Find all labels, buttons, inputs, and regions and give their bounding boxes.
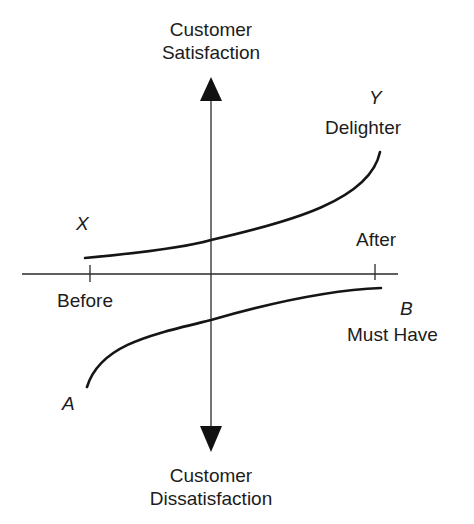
satisfaction-label-line1: Customer [141, 18, 281, 41]
after-label: After [356, 228, 396, 251]
arrow-down-icon [200, 426, 222, 452]
point-a-label: A [62, 392, 75, 415]
point-x-label: X [76, 212, 89, 235]
satisfaction-label-line2: Satisfaction [141, 41, 281, 64]
kano-diagram: Customer Satisfaction Customer Dissatisf… [0, 0, 474, 524]
must-have-curve [87, 288, 381, 387]
delighter-label: Delighter [325, 116, 401, 139]
delighter-curve [85, 152, 380, 258]
dissatisfaction-label-line1: Customer [131, 464, 291, 487]
arrow-up-icon [200, 77, 222, 101]
diagram-canvas [0, 0, 474, 524]
point-y-label: Y [369, 86, 382, 109]
satisfaction-label: Customer Satisfaction [141, 18, 281, 64]
dissatisfaction-label-line2: Dissatisfaction [131, 487, 291, 510]
before-label: Before [57, 289, 113, 312]
dissatisfaction-label: Customer Dissatisfaction [131, 464, 291, 510]
point-b-label: B [400, 297, 413, 320]
must-have-label: Must Have [347, 323, 438, 346]
